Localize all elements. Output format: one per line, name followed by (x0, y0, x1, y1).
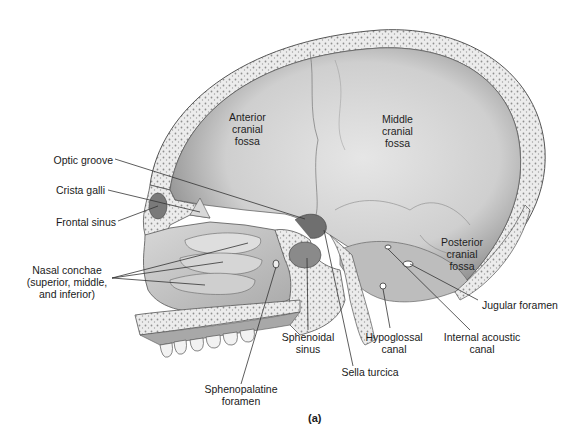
hypoglossal-opening (380, 283, 386, 289)
label-middle-cranial-fossa: Middle cranial fossa (382, 113, 413, 149)
label-optic-groove: Optic groove (33, 154, 113, 166)
sphenoidal-sinus-cavity (289, 242, 321, 268)
label-sphenoidal-sinus: Sphenoidal sinus (278, 331, 338, 355)
label-jugular-foramen: Jugular foramen (482, 299, 558, 311)
label-sphenopalatine-foramen: Sphenopalatine foramen (196, 383, 286, 407)
label-sella-turcica: Sella turcica (330, 366, 410, 378)
sphenopalatine-opening (273, 260, 279, 268)
label-internal-acoustic-canal: Internal acoustic canal (434, 331, 530, 355)
superior-concha (185, 233, 261, 254)
label-nasal-conchae: Nasal conchae (superior, middle, and inf… (24, 264, 110, 300)
label-anterior-cranial-fossa: Anterior cranial fossa (229, 111, 266, 147)
jugular-opening (403, 261, 413, 267)
label-hypoglossal-canal: Hypoglossal canal (362, 331, 426, 355)
internal-acoustic-opening (385, 245, 391, 249)
label-frontal-sinus: Frontal sinus (30, 216, 116, 228)
label-crista-galli: Crista galli (33, 184, 105, 196)
figure-caption: (a) (308, 412, 321, 424)
skull-sagittal-diagram: Anterior cranial fossa Middle cranial fo… (0, 0, 583, 435)
label-posterior-cranial-fossa: Posterior cranial fossa (441, 236, 483, 272)
